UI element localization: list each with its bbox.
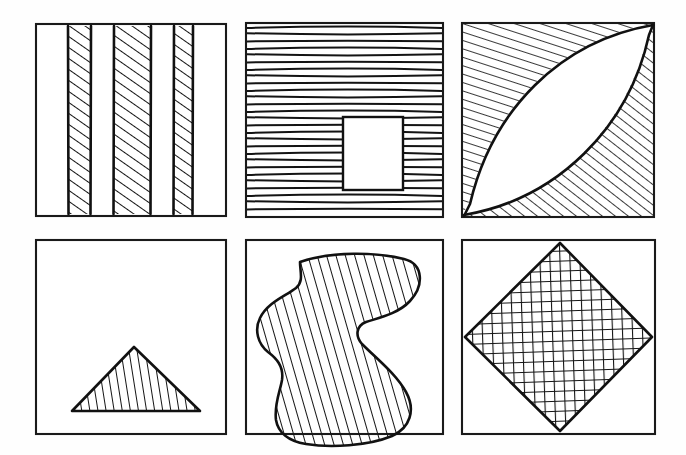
panel-2-hatch-line [247,62,442,63]
panel-1-stripe-right [174,26,194,214]
figure-canvas [0,0,686,455]
panel-3-lens [462,23,654,217]
panel-2-hatch-line [247,83,442,84]
panel-6-diamond [460,238,660,438]
panel-2-hatch-line [247,209,442,210]
panel-2-horizontal-lines [246,23,443,217]
panel-1-stripe-left [68,26,91,214]
panel-1-vertical-stripes [36,24,226,216]
panel-1-stripe-center [114,26,152,214]
panel-2-inner-rectangle-hole [343,117,403,190]
panel-2-hatch-line [247,41,442,42]
figure-sheet [0,0,686,455]
panel-4-triangle [36,240,226,434]
panel-5-blob [246,240,443,452]
panel-2-hatch-line [247,104,442,105]
